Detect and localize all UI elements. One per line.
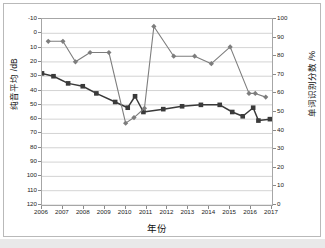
right-tick-label: 70 (277, 71, 299, 77)
left-axis-title: 纯音平均 /dB (7, 24, 19, 144)
data-point (161, 107, 166, 112)
right-tick-mark (273, 55, 276, 56)
right-tick-mark (273, 185, 276, 186)
data-point (199, 103, 204, 108)
x-tick-mark (166, 206, 167, 209)
left-tick-label: 120 (15, 201, 37, 207)
right-tick-label: 30 (277, 145, 299, 151)
right-tick-label: 0 (277, 201, 299, 207)
x-tick-mark (187, 206, 188, 209)
data-point (73, 59, 78, 64)
x-tick-mark (125, 206, 126, 209)
right-tick-mark (273, 92, 276, 93)
x-tick-mark (83, 206, 84, 209)
x-axis-title: 年份 (41, 221, 273, 235)
data-point (263, 95, 268, 100)
data-point (133, 94, 138, 99)
left-tick-label: 110 (15, 187, 37, 193)
right-tick-label: 20 (277, 164, 299, 170)
x-tick-mark (62, 206, 63, 209)
data-point (256, 118, 261, 123)
figure-bottom-edge (0, 239, 325, 248)
data-point (240, 114, 245, 119)
right-tick-mark (273, 204, 276, 205)
x-tick-mark (41, 206, 42, 209)
data-point (268, 117, 272, 122)
x-tick-mark (229, 206, 230, 209)
data-point (106, 50, 111, 55)
x-tick-label: 2017 (257, 209, 285, 215)
data-point (253, 91, 258, 96)
data-point (113, 100, 118, 105)
plot-svg (42, 19, 272, 205)
right-tick-label: 50 (277, 108, 299, 114)
data-point (251, 105, 256, 110)
data-point (246, 91, 251, 96)
data-point (192, 54, 197, 59)
right-tick-label: 90 (277, 34, 299, 40)
data-point (42, 71, 44, 76)
left-tick-label: -10 (15, 15, 37, 21)
right-tick-label: 40 (277, 127, 299, 133)
data-point (125, 105, 130, 110)
data-point (180, 104, 185, 109)
data-point (230, 110, 235, 115)
data-point (66, 81, 71, 86)
x-tick-mark (250, 206, 251, 209)
right-tick-mark (273, 74, 276, 75)
right-tick-mark (273, 167, 276, 168)
data-point (60, 39, 65, 44)
right-tick-mark (273, 18, 276, 19)
left-tick-label: 80 (15, 144, 37, 150)
right-axis-title: 单词识别分数 /% (305, 24, 317, 144)
data-point (87, 50, 92, 55)
left-tick-label: 100 (15, 172, 37, 178)
x-tick-mark (208, 206, 209, 209)
data-point (217, 103, 222, 108)
right-tick-mark (273, 111, 276, 112)
x-tick-mark (104, 206, 105, 209)
right-tick-label: 100 (277, 15, 299, 21)
left-tick-label: 90 (15, 158, 37, 164)
series-line-1 (48, 26, 265, 123)
chart-figure: -100102030405060708090100110120 01020304… (0, 0, 325, 248)
x-tick-mark (271, 206, 272, 209)
data-point (94, 91, 99, 96)
data-point (46, 39, 51, 44)
right-tick-mark (273, 148, 276, 149)
data-point (51, 74, 56, 79)
series-line-0 (42, 73, 270, 120)
right-tick-label: 10 (277, 182, 299, 188)
right-tick-mark (273, 37, 276, 38)
plot-area (41, 18, 273, 206)
data-point (80, 84, 85, 89)
right-tick-label: 80 (277, 52, 299, 58)
right-tick-mark (273, 130, 276, 131)
right-tick-label: 60 (277, 89, 299, 95)
x-tick-mark (146, 206, 147, 209)
